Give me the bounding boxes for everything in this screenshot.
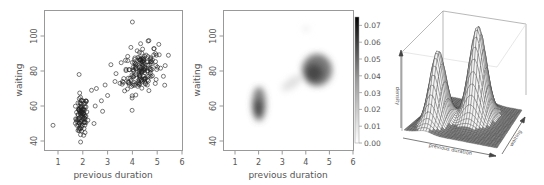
density-surface-3d: previous duration waiting density [0,0,544,185]
surface-z-label: density [394,87,401,105]
surface-mesh [404,27,522,149]
surface-x-label: previous duration [428,142,473,157]
surface-y-label: waiting [508,129,524,148]
figure: 123456 406080100 previous duration waiti… [0,0,544,185]
